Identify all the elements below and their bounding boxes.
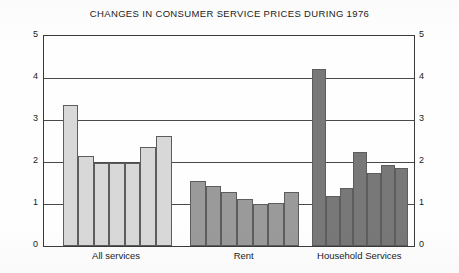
y-tick-right-3: 3 bbox=[419, 114, 439, 123]
bar bbox=[140, 147, 156, 246]
y-tick-right-1: 1 bbox=[419, 198, 439, 207]
bar bbox=[253, 204, 269, 246]
bar bbox=[367, 173, 381, 247]
bar bbox=[206, 186, 222, 246]
bar bbox=[268, 203, 284, 246]
bar bbox=[340, 188, 354, 246]
y-tick-right-4: 4 bbox=[419, 72, 439, 81]
y-tick-left-5: 5 bbox=[18, 30, 38, 39]
bar bbox=[312, 69, 326, 246]
bar bbox=[63, 105, 79, 246]
y-tick-right-0: 0 bbox=[419, 240, 439, 249]
group-label-household-services: Household Services bbox=[311, 250, 407, 261]
bar bbox=[190, 181, 206, 246]
chart-container: CHANGES IN CONSUMER SERVICE PRICES DURIN… bbox=[0, 0, 459, 273]
y-tick-left-2: 2 bbox=[18, 156, 38, 165]
bar bbox=[78, 156, 94, 246]
gridline-4 bbox=[44, 78, 414, 79]
group-label-all-services: All services bbox=[62, 250, 171, 261]
bar bbox=[237, 199, 253, 246]
bar bbox=[353, 152, 367, 247]
bar bbox=[284, 192, 300, 246]
y-tick-left-4: 4 bbox=[18, 72, 38, 81]
y-tick-left-0: 0 bbox=[18, 240, 38, 249]
y-tick-right-5: 5 bbox=[419, 30, 439, 39]
bar bbox=[221, 192, 237, 246]
y-tick-left-1: 1 bbox=[18, 198, 38, 207]
bar bbox=[395, 168, 409, 246]
plot-area bbox=[43, 35, 415, 247]
bar bbox=[326, 196, 340, 246]
bar bbox=[94, 163, 110, 246]
group-label-rent: Rent bbox=[189, 250, 298, 261]
y-tick-right-2: 2 bbox=[419, 156, 439, 165]
chart-title: CHANGES IN CONSUMER SERVICE PRICES DURIN… bbox=[0, 8, 459, 19]
bar bbox=[381, 165, 395, 246]
bar bbox=[156, 136, 172, 246]
gridline-3 bbox=[44, 120, 414, 121]
bar bbox=[125, 163, 141, 246]
bar bbox=[109, 163, 125, 246]
y-tick-left-3: 3 bbox=[18, 114, 38, 123]
